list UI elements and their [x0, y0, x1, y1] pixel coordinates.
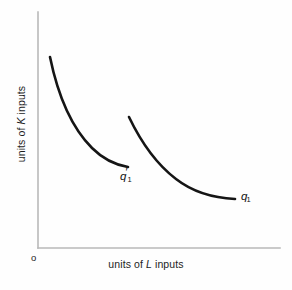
isoquant-curve-q1 [129, 117, 235, 199]
x-axis-title-suffix: inputs [152, 258, 184, 270]
isoquant-curve-q1-prime [50, 57, 128, 167]
y-axis-variable: K [15, 117, 27, 124]
y-axis-title-suffix: inputs [15, 86, 27, 118]
isoquant-diagram: units of K inputs units of L inputs o q′… [0, 0, 292, 290]
curve-label-q1-prime-subscript: 1 [127, 175, 131, 184]
x-axis-title-prefix: units of [108, 258, 146, 270]
curve-label-q1: q1 [241, 190, 252, 202]
y-axis-title: units of K inputs [15, 54, 27, 194]
x-axis-title: units of L inputs [0, 258, 292, 270]
origin-label: o [31, 252, 36, 263]
plot-canvas [0, 0, 292, 290]
curve-label-q1-subscript: 1 [246, 195, 250, 204]
y-axis-title-prefix: units of [15, 125, 27, 163]
curve-label-q1-prime: q′1 [120, 170, 133, 182]
